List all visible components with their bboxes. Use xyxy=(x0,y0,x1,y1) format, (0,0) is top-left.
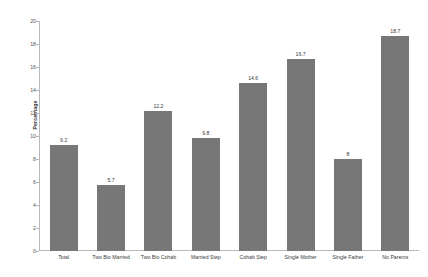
bar-value-label: 9.2 xyxy=(60,137,67,143)
bar[interactable] xyxy=(144,111,172,251)
bar-slot: 5.7 xyxy=(87,21,134,251)
y-axis-tick-mark xyxy=(36,136,39,137)
y-axis-tick-labels: 02468101214161820 xyxy=(14,0,36,277)
bar[interactable] xyxy=(334,159,362,251)
bar-value-label: 9.8 xyxy=(202,130,209,136)
bar-slot: 8 xyxy=(324,21,371,251)
y-axis-tick-mark xyxy=(36,21,39,22)
x-axis-tick-label: Two Bio Married xyxy=(92,254,129,260)
bar-value-label: 16.7 xyxy=(296,51,306,57)
x-axis-tick-label: Total xyxy=(58,254,69,260)
bar-value-label: 14.6 xyxy=(248,75,258,81)
y-axis-tick-mark xyxy=(36,182,39,183)
bar[interactable] xyxy=(239,83,267,251)
bar-slot: 14.6 xyxy=(230,21,277,251)
x-axis-tick-label: Two Bio Cohab xyxy=(141,254,176,260)
bar[interactable] xyxy=(287,59,315,251)
y-axis-tick-label: 2 xyxy=(14,225,36,231)
y-axis-tick-label: 12 xyxy=(14,110,36,116)
bar-chart: Percentage 02468101214161820 9.25.712.29… xyxy=(0,0,428,277)
y-axis-tick-label: 20 xyxy=(14,18,36,24)
y-axis-tick-label: 14 xyxy=(14,87,36,93)
bar[interactable] xyxy=(381,36,409,251)
y-axis-tick-mark xyxy=(36,228,39,229)
bar[interactable] xyxy=(192,138,220,251)
y-axis-tick-mark xyxy=(36,251,39,252)
y-axis-tick-label: 18 xyxy=(14,41,36,47)
x-axis-tick-label: Cohab Step xyxy=(239,254,266,260)
y-axis-tick-label: 6 xyxy=(14,179,36,185)
y-axis-tick-mark xyxy=(36,90,39,91)
bar-slot: 9.8 xyxy=(182,21,229,251)
x-axis-tick-labels: TotalTwo Bio MarriedTwo Bio CohabMarried… xyxy=(40,254,419,268)
y-axis-tick-mark xyxy=(36,113,39,114)
plot-area: 9.25.712.29.814.616.7818.7 xyxy=(40,21,419,251)
y-axis-tick-label: 10 xyxy=(14,133,36,139)
y-axis-tick-mark xyxy=(36,44,39,45)
x-axis-tick-label: Single Father xyxy=(333,254,364,260)
bar[interactable] xyxy=(50,145,78,251)
y-axis-tick-mark xyxy=(36,159,39,160)
y-axis-tick-label: 0 xyxy=(14,248,36,254)
bar-value-label: 5.7 xyxy=(107,177,114,183)
y-axis-tick-mark xyxy=(36,205,39,206)
bar-value-label: 18.7 xyxy=(390,28,400,34)
x-axis-tick-label: No Parents xyxy=(382,254,408,260)
y-axis-tick-mark xyxy=(36,67,39,68)
x-axis-tick-label: Married Step xyxy=(191,254,221,260)
bar-value-label: 8 xyxy=(346,151,349,157)
bar-slot: 9.2 xyxy=(40,21,87,251)
x-axis-tick-label: Single Mother xyxy=(285,254,317,260)
y-axis-tick-label: 16 xyxy=(14,64,36,70)
bar-slot: 12.2 xyxy=(135,21,182,251)
bar-slot: 16.7 xyxy=(277,21,324,251)
y-axis-tick-label: 8 xyxy=(14,156,36,162)
bar[interactable] xyxy=(97,185,125,251)
y-axis-tick-label: 4 xyxy=(14,202,36,208)
bar-slot: 18.7 xyxy=(372,21,419,251)
bar-value-label: 12.2 xyxy=(153,103,163,109)
